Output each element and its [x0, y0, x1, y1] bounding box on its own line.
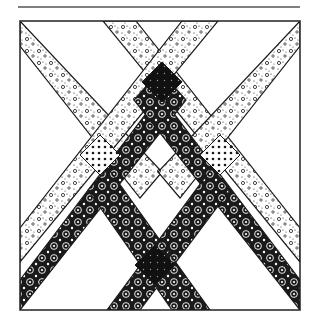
- quilt-block-figure: [0, 0, 319, 326]
- quilt-block-drawing: [0, 0, 319, 326]
